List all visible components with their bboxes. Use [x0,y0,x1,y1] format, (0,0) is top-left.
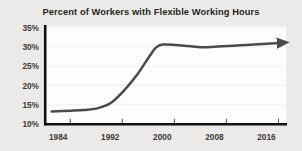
flexible-working-hours-chart: Percent of Workers with Flexible Working… [0,0,302,151]
data-series-line [52,43,280,111]
x-axis-ticks [70,119,278,123]
gridlines [47,28,287,105]
chart-graphics [0,0,302,151]
